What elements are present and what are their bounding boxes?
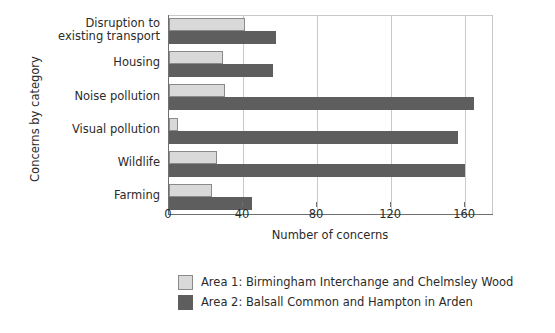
legend-swatch-series-1 [178, 275, 193, 290]
x-axis-tick-label: 120 [367, 207, 413, 221]
bar-series-2 [169, 64, 273, 77]
bar-series-1 [169, 151, 217, 164]
bar-series-2 [169, 164, 465, 177]
plot-area [168, 15, 493, 215]
bar-series-1 [169, 51, 223, 64]
y-axis-category-label: Noise pollution [2, 90, 160, 104]
bar-row [169, 81, 493, 114]
bar-series-1 [169, 184, 212, 197]
legend-label-series-1: Area 1: Birmingham Interchange and Chelm… [201, 275, 513, 289]
legend-swatch-series-2 [178, 295, 193, 310]
x-axis-tick-label: 0 [145, 207, 191, 221]
bar-series-2 [169, 97, 474, 110]
bar-series-1 [169, 118, 178, 131]
y-axis-category-label: Wildlife [2, 156, 160, 170]
legend-item: Area 2: Balsall Common and Hampton in Ar… [178, 292, 513, 312]
bar-chart: Concerns by category Disruption toexisti… [0, 0, 555, 333]
x-axis-tick-label: 80 [293, 207, 339, 221]
y-axis-category-label: Disruption toexisting transport [2, 17, 160, 44]
bar-series-2 [169, 31, 276, 44]
bar-series-1 [169, 84, 225, 97]
legend-item: Area 1: Birmingham Interchange and Chelm… [178, 272, 513, 292]
x-axis-tick-label: 160 [441, 207, 487, 221]
bar-series-2 [169, 131, 458, 144]
bar-row [169, 48, 493, 81]
bar-row [169, 15, 493, 48]
x-axis-title: Number of concerns [168, 228, 492, 242]
x-axis-tick-label: 40 [219, 207, 265, 221]
y-axis-category-label: Visual pollution [2, 123, 160, 137]
legend-label-series-2: Area 2: Balsall Common and Hampton in Ar… [201, 295, 473, 309]
y-axis-category-label: Farming [2, 189, 160, 203]
bar-series-1 [169, 18, 245, 31]
y-axis-category-label: Housing [2, 56, 160, 70]
y-axis-category-labels: Disruption toexisting transportHousingNo… [0, 14, 166, 214]
legend: Area 1: Birmingham Interchange and Chelm… [178, 272, 513, 312]
bar-row [169, 115, 493, 148]
bar-row [169, 148, 493, 181]
